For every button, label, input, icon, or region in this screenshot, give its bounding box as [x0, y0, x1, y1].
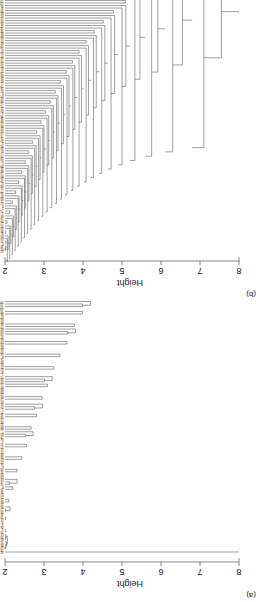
axis-tick-label: 2 [2, 567, 7, 576]
axis-tick-label: 6 [158, 266, 163, 275]
leaf-label: 82 [0, 550, 3, 554]
axis-tick-label: 5 [119, 567, 124, 576]
axis-tick-label: 7 [197, 266, 202, 275]
axis-tick-label: 8 [236, 567, 241, 576]
axis-tick-label: 2 [2, 266, 7, 275]
panel-a: (a) Height 87654328218428491803357294469… [0, 301, 260, 602]
axis-tick-label: 3 [41, 567, 46, 576]
axis-tick-label: 8 [236, 266, 241, 275]
dendrogram-figure: (b) Height 87654322145398306960319694911… [0, 0, 260, 602]
axis-tick-label: 7 [197, 567, 202, 576]
axis-tick-label: 4 [80, 567, 85, 576]
height-axis: 8765432 [2, 257, 241, 275]
panel-a-tag: (a) [246, 591, 256, 600]
panel-b-tag: (b) [246, 290, 256, 299]
axis-tick-label: 4 [80, 266, 85, 275]
axis-tick-label: 5 [119, 266, 124, 275]
panel-b-plot: 8765432214539830696031969491129919641732… [0, 0, 260, 275]
panel-b-dendrogram: 8765432214539830696031969491129919641732… [0, 0, 260, 275]
dendrogram-branches: 8218428491803357294469416113484517687286… [0, 301, 239, 554]
axis-tick-label: 6 [158, 567, 163, 576]
panel-a-axis-label: Height [0, 579, 260, 589]
leaf-label: 21 [0, 249, 3, 253]
panel-a-dendrogram: 8765432821842849180335729446941611348451… [0, 301, 260, 576]
height-axis: 8765432 [2, 558, 241, 576]
dendrogram-branches: 2145398306960319694911299196417326572488… [0, 0, 239, 261]
panel-a-plot: 8765432821842849180335729446941611348451… [0, 301, 260, 576]
panel-b: (b) Height 87654322145398306960319694911… [0, 0, 260, 301]
axis-tick-label: 3 [41, 266, 46, 275]
panel-b-axis-label: Height [0, 278, 260, 288]
